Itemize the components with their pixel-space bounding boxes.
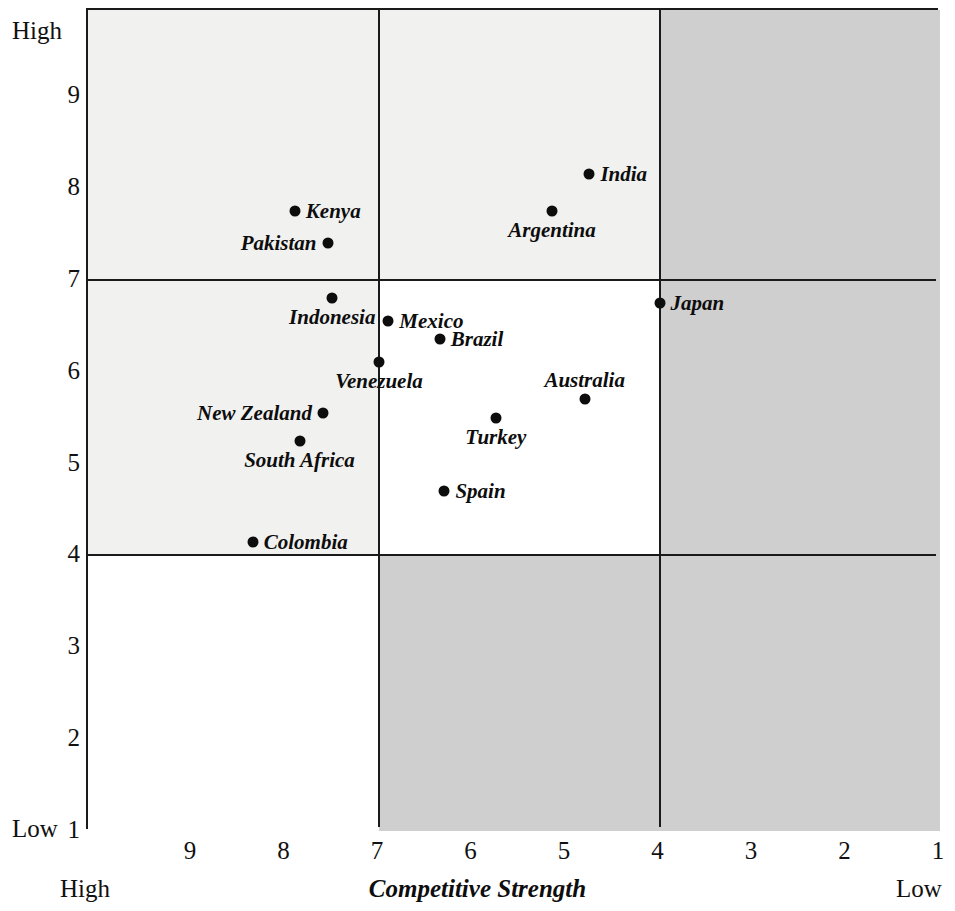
x-axis-tick-label: 8 <box>254 838 314 863</box>
x-axis-tick-label: 7 <box>347 838 407 863</box>
competitive-strength-matrix-chart: High Low 987654321 IndiaKenyaArgentinaPa… <box>0 0 955 911</box>
x-axis-tick-label: 5 <box>534 838 594 863</box>
x-axis-tick-label: 6 <box>441 838 501 863</box>
x-axis-low-label: Low <box>896 876 942 901</box>
x-axis-tick-label: 1 <box>908 838 955 863</box>
x-axis-title: Competitive Strength <box>0 876 955 901</box>
x-axis-tick-label: 3 <box>721 838 781 863</box>
x-axis-tick-label: 9 <box>160 838 220 863</box>
x-axis-tick-label: 2 <box>815 838 875 863</box>
x-axis-tick-label: 4 <box>628 838 688 863</box>
x-axis-ticks: 987654321 <box>0 0 955 911</box>
